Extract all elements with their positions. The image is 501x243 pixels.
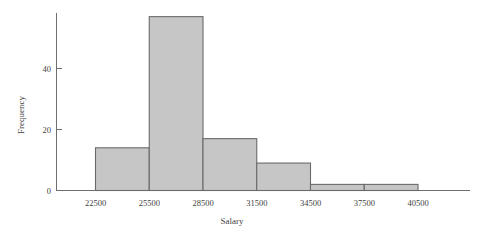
- bar-28500-31500: [203, 139, 257, 191]
- histogram-plot: 0 20 40 Frequency 22500 25500 28500 3150…: [0, 0, 501, 243]
- x-tick-label-37500: 37500: [354, 198, 375, 208]
- x-tick-label-34500: 34500: [300, 198, 321, 208]
- bar-31500-34500: [257, 163, 311, 190]
- histogram-figure: 0 20 40 Frequency 22500 25500 28500 3150…: [0, 0, 501, 243]
- y-axis-ticks: [57, 69, 63, 191]
- x-axis-title: Salary: [221, 216, 244, 226]
- bar-34500-37500: [311, 184, 365, 190]
- x-tick-label-28500: 28500: [192, 198, 213, 208]
- y-axis-title: Frequency: [16, 96, 26, 134]
- bars-group: [96, 17, 419, 191]
- bar-22500-25500: [96, 148, 150, 191]
- x-tick-label-40500: 40500: [407, 198, 428, 208]
- bar-37500-40500: [364, 184, 418, 190]
- x-tick-label-25500: 25500: [139, 198, 160, 208]
- x-tick-label-22500: 22500: [85, 198, 106, 208]
- bar-25500-28500: [149, 17, 203, 191]
- y-tick-label-0: 0: [47, 186, 51, 196]
- y-tick-label-40: 40: [43, 64, 52, 74]
- x-tick-label-31500: 31500: [246, 198, 267, 208]
- y-tick-label-20: 20: [43, 125, 52, 135]
